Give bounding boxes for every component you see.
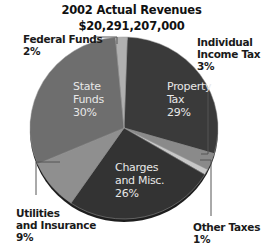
label-individual-income-tax: Individual Income Tax 3% (197, 36, 260, 72)
label-other-taxes: Other Taxes 1% (193, 221, 260, 245)
label-federal-funds: Federal Funds 2% (23, 33, 103, 57)
label-property-tax: Property Tax 29% (167, 80, 211, 119)
label-state-funds: State Funds 30% (73, 80, 104, 119)
label-utilities-insurance: Utilities and Insurance 9% (16, 207, 96, 243)
label-charges-misc: Charges and Misc. 26% (115, 161, 164, 200)
